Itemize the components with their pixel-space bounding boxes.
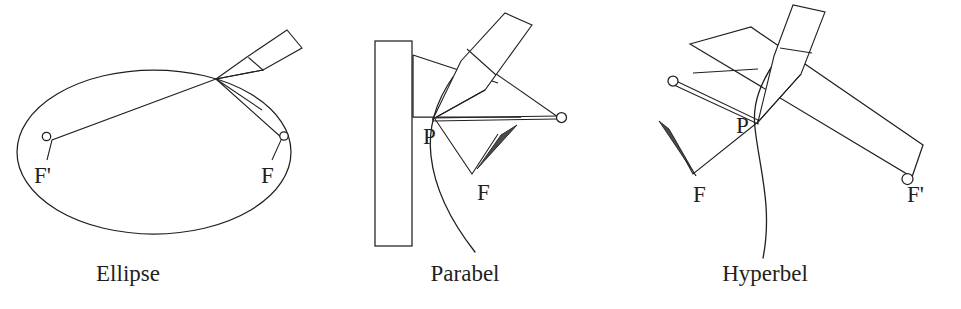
string-to-focus xyxy=(435,119,498,174)
label-point-p: P xyxy=(423,124,436,149)
pencil-body-icon xyxy=(216,30,302,79)
pin-focus-left-icon xyxy=(42,132,50,140)
caption-hyperbola: Hyperbel xyxy=(722,261,808,286)
label-point-p: P xyxy=(736,113,749,138)
ruler-directrix-icon xyxy=(375,41,412,246)
string-right-branch xyxy=(216,79,282,160)
caption-parabola: Parabel xyxy=(431,261,500,286)
label-focus-left: F xyxy=(693,182,706,207)
ellipse-curve xyxy=(17,70,291,234)
panel-hyperbola: P F F' Hyperbel xyxy=(640,0,961,309)
hyperbola-diagram: P F F' Hyperbel xyxy=(640,0,961,309)
pin-focus-right-icon xyxy=(280,132,288,140)
panel-ellipse: F' F Ellipse xyxy=(0,0,320,309)
ruler-edge-line-icon xyxy=(693,69,758,73)
ring-string-anchor-icon xyxy=(557,113,567,123)
label-focus-left: F' xyxy=(34,163,51,188)
ellipse-diagram: F' F Ellipse xyxy=(0,0,320,309)
panel-parabola: P F Parabel xyxy=(320,0,640,309)
conic-constructions-figure: F' F Ellipse xyxy=(0,0,961,309)
needle-focus-icon xyxy=(659,121,696,176)
parabola-diagram: P F Parabel xyxy=(320,0,640,309)
label-focus-right: F xyxy=(261,163,274,188)
label-focus-right: F' xyxy=(907,182,924,207)
string-strand-secondary xyxy=(216,79,262,110)
ring-ruler-pivot-icon xyxy=(668,76,678,86)
label-focus: F xyxy=(477,180,490,205)
caption-ellipse: Ellipse xyxy=(96,261,160,286)
string-left-branch xyxy=(47,79,216,160)
needle-focus-icon xyxy=(477,125,517,169)
